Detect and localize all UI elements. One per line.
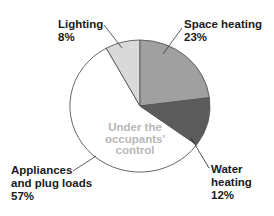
label-space-heating: Space heating 23%: [184, 18, 262, 44]
label-water-heating: Water heating 12%: [211, 163, 252, 202]
label-water-heating-line2: heating: [211, 176, 252, 189]
label-appliances-pct: 57%: [11, 190, 92, 203]
center-annotation-line3: control: [90, 145, 180, 157]
label-lighting: Lighting 8%: [58, 18, 103, 44]
center-annotation: Under the occupants' control: [90, 122, 180, 157]
center-annotation-line1: Under the: [90, 122, 180, 134]
label-lighting-name: Lighting: [58, 18, 103, 31]
label-appliances: Appliances and plug loads 57%: [11, 164, 92, 203]
label-space-heating-pct: 23%: [184, 31, 262, 44]
label-water-heating-pct: 12%: [211, 189, 252, 202]
label-lighting-pct: 8%: [58, 31, 103, 44]
slice-space-heating: [140, 40, 209, 106]
label-water-heating-line1: Water: [211, 163, 252, 176]
leader-lighting: [104, 25, 122, 48]
label-appliances-line2: and plug loads: [11, 177, 92, 190]
label-appliances-line1: Appliances: [11, 164, 92, 177]
label-space-heating-name: Space heating: [184, 18, 262, 31]
leader-water-heating: [191, 138, 209, 168]
